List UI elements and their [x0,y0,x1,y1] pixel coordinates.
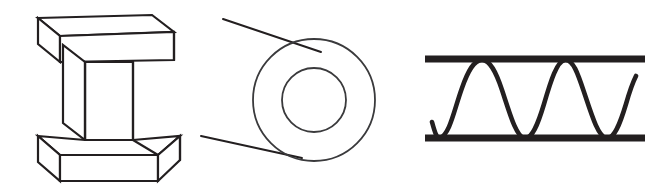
pulley-assembly [201,19,375,161]
web-left-side-face [63,45,85,140]
wave-assembly [425,56,645,142]
pulley-inner-circle [282,68,346,132]
figure-sine-wave-between-rails: Sine wave bounded by two horizontal rail… [410,0,658,194]
web-front-face [85,62,133,140]
top-rail [425,56,645,63]
i-beam-solid [38,15,180,181]
belt-upper-tangent-line [223,19,321,52]
figure-pulley-with-belt: Pulley with belt (concentric circles) [190,0,400,194]
figure-isometric-i-beam: I-beam in isometric projection [0,0,200,194]
sine-wave-curve [432,60,636,138]
bottom-flange-front-face [60,155,158,181]
figure-sheet: I-beam in isometric projection Pulley wi… [0,0,658,194]
pulley-outer-circle [253,39,375,161]
